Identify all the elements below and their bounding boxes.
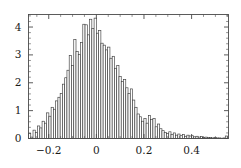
- histogram-bar: [162, 131, 164, 139]
- y-axis-tick-label: 4: [2, 21, 22, 33]
- histogram-bar: [148, 116, 150, 139]
- y-axis-tick-label: 3: [2, 48, 22, 60]
- histogram-bar: [65, 78, 67, 139]
- histogram-bar: [85, 25, 87, 139]
- histogram-bar: [119, 77, 121, 139]
- histogram-bar: [49, 116, 51, 138]
- x-axis-tick-label: 0.4: [172, 144, 212, 156]
- histogram-figure: 01234−0.200.20.4: [0, 0, 241, 168]
- histogram-bar: [62, 84, 64, 138]
- histogram-bar: [139, 117, 141, 139]
- histogram-bar: [99, 30, 101, 138]
- histogram-bar: [42, 121, 44, 138]
- histogram-bar: [110, 58, 112, 138]
- histogram-bar: [40, 128, 42, 139]
- x-axis-tick-label: −0.2: [29, 144, 69, 156]
- histogram-bar: [187, 135, 189, 138]
- histogram-bars: [29, 18, 228, 138]
- histogram-bar: [124, 79, 126, 138]
- histogram-bar: [164, 132, 166, 138]
- x-axis-tick-label: 0.2: [124, 144, 164, 156]
- histogram-bar: [51, 107, 53, 138]
- histogram-bar: [83, 24, 85, 138]
- histogram-bar: [176, 135, 178, 138]
- histogram-bar: [128, 93, 130, 138]
- histogram-bar: [56, 101, 58, 139]
- x-axis-tick-label: 0: [76, 144, 116, 156]
- histogram-bar: [67, 70, 69, 138]
- histogram-bar: [90, 19, 92, 138]
- histogram-bar: [121, 81, 123, 138]
- histogram-bar: [146, 123, 148, 138]
- histogram-bar: [76, 52, 78, 139]
- histogram-bar: [71, 65, 73, 138]
- histogram-bar: [94, 18, 96, 138]
- histogram-bar: [114, 68, 116, 138]
- histogram-bar: [130, 89, 132, 139]
- histogram-bar: [153, 118, 155, 138]
- histogram-bar: [155, 127, 157, 139]
- histogram-bar: [126, 88, 128, 139]
- histogram-bar: [81, 42, 83, 138]
- histogram-bar: [105, 50, 107, 139]
- histogram-bar: [101, 43, 103, 138]
- y-axis-tick-label: 2: [2, 76, 22, 88]
- histogram-bar: [135, 107, 137, 138]
- histogram-bar: [169, 132, 171, 139]
- histogram-bar: [53, 109, 55, 138]
- histogram-bar: [108, 47, 110, 138]
- histogram-bar: [38, 126, 40, 139]
- histogram-bar: [74, 40, 76, 139]
- histogram-bar: [173, 133, 175, 139]
- histogram-bar: [35, 132, 37, 138]
- y-axis-tick-label: 1: [2, 104, 22, 116]
- histogram-bar: [92, 28, 94, 138]
- histogram-bar: [133, 100, 135, 138]
- histogram-bar: [58, 97, 60, 138]
- histogram-bar: [60, 93, 62, 138]
- histogram-bar: [157, 124, 159, 138]
- histogram-bar: [142, 121, 144, 138]
- histogram-bar: [171, 134, 173, 138]
- histogram-bar: [117, 65, 119, 138]
- histogram-bar: [33, 130, 35, 138]
- histogram-bar: [137, 114, 139, 139]
- histogram-bar: [103, 45, 105, 138]
- histogram-bar: [78, 54, 80, 138]
- histogram-bar: [69, 55, 71, 138]
- histogram-bar: [44, 123, 46, 138]
- histogram-bar: [112, 56, 114, 138]
- y-axis-tick-label: 0: [2, 132, 22, 144]
- histogram-bar: [96, 33, 98, 138]
- histogram-bar: [182, 135, 184, 139]
- histogram-bar: [151, 120, 153, 139]
- histogram-bar: [160, 129, 162, 139]
- histogram-bar: [87, 35, 89, 139]
